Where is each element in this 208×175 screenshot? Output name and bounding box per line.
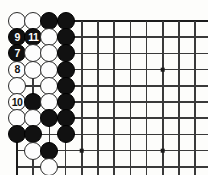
star-point	[161, 148, 166, 153]
stone-move-number: 11	[28, 32, 38, 43]
stone-move-number: 8	[14, 64, 19, 75]
grid-line-vertical	[97, 21, 99, 175]
grid-line-vertical	[178, 21, 180, 175]
go-board[interactable]: 9117810	[0, 0, 208, 175]
stone-move-number: 7	[14, 48, 19, 59]
grid-line-vertical	[130, 21, 132, 175]
stone-black[interactable]	[57, 125, 75, 143]
stone-move-number: 9	[14, 32, 19, 43]
grid-line-vertical	[194, 21, 196, 175]
grid-line-vertical	[146, 21, 148, 175]
stone-white[interactable]	[40, 158, 58, 175]
grid-line-vertical	[113, 21, 115, 175]
stone-move-number: 10	[12, 97, 22, 108]
star-point	[161, 67, 166, 72]
star-point	[80, 148, 85, 153]
